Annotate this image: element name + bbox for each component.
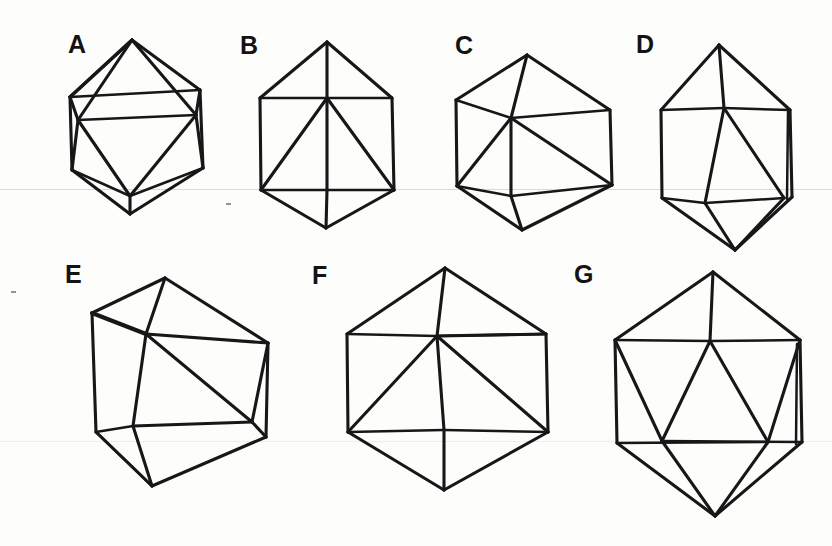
polyhedron-a — [70, 40, 203, 214]
panel-label-c: C — [455, 33, 473, 58]
polyhedron-g — [615, 272, 802, 516]
polyhedron-e — [92, 278, 268, 486]
figure-sheet: A B C D E F G — [0, 0, 832, 546]
panel-label-e: E — [65, 262, 82, 287]
panel-label-b: B — [240, 33, 258, 58]
polyhedra-drawing — [0, 0, 832, 546]
polyhedron-c — [456, 55, 612, 230]
panel-label-d: D — [636, 32, 654, 57]
panel-label-f: F — [312, 263, 327, 288]
polyhedron-f — [347, 268, 548, 490]
panel-label-a: A — [68, 32, 86, 57]
polyhedron-d — [661, 45, 792, 250]
panel-label-g: G — [574, 262, 593, 287]
polyhedron-b — [260, 42, 394, 228]
